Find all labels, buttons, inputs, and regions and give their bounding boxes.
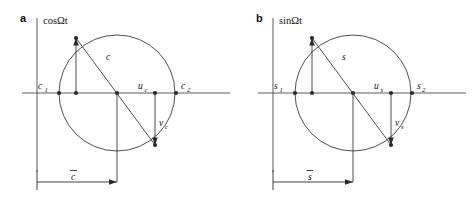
dimension-group-a: c xyxy=(37,170,117,190)
dot-left-intercept-a xyxy=(57,91,61,95)
dot-center-b xyxy=(351,91,355,95)
dot-right-intercept-b xyxy=(410,91,414,95)
label-right-intercept-main-b: s xyxy=(417,81,421,91)
dimension-label-a: c xyxy=(70,171,77,183)
label-v-sub-b: s xyxy=(401,123,404,130)
dimension-group-b: s xyxy=(273,170,353,190)
label-left-intercept-b: s 1 xyxy=(274,81,283,93)
diameter-chord-a xyxy=(76,38,155,145)
label-v-sub-a: c xyxy=(165,123,168,130)
figure-root: a cosΩt c 1 xyxy=(0,0,472,207)
dimension-label-main-a: c xyxy=(71,172,76,182)
axis-label-a: cosΩt xyxy=(43,15,68,26)
dot-u-point-b xyxy=(389,91,393,95)
panel-letter-b: b xyxy=(256,12,263,24)
label-u-main-a: u xyxy=(138,81,143,91)
label-right-intercept-b: s 2 xyxy=(417,81,426,93)
dot-upper-foot-a xyxy=(74,91,78,95)
dot-left-intercept-b xyxy=(293,91,297,95)
dot-center-a xyxy=(115,91,119,95)
label-radius-a: c xyxy=(106,52,111,62)
dimension-arrowhead-b xyxy=(345,179,353,185)
dot-u-point-a xyxy=(153,91,157,95)
label-left-intercept-main-b: s xyxy=(274,81,278,91)
label-u-sub-b: s xyxy=(381,86,384,93)
label-left-intercept-sub-a: 1 xyxy=(45,86,48,93)
dot-upper-circle-b xyxy=(310,36,314,40)
label-v-main-a: v xyxy=(159,118,164,128)
label-left-intercept-a: c 1 xyxy=(38,81,48,93)
label-v-main-b: v xyxy=(395,118,400,128)
label-right-intercept-main-a: c xyxy=(181,81,186,91)
diameter-chord-b xyxy=(312,38,391,145)
axis-label-b: sinΩt xyxy=(279,15,302,26)
dot-lower-circle-b xyxy=(389,143,393,147)
panel-b-sine-diagram: b sinΩt s 1 s 2 s u s xyxy=(236,0,472,207)
dimension-label-main-b: s xyxy=(308,172,312,182)
dimension-label-b: s xyxy=(307,171,314,183)
label-left-intercept-main-a: c xyxy=(38,81,43,91)
label-right-intercept-a: c 2 xyxy=(181,81,191,93)
label-right-intercept-sub-a: 2 xyxy=(187,86,191,93)
dot-right-intercept-a xyxy=(174,91,178,95)
label-u-sub-a: c xyxy=(145,86,148,93)
panel-letter-a: a xyxy=(20,12,27,24)
dot-upper-circle-a xyxy=(74,36,78,40)
dot-lower-circle-a xyxy=(153,143,157,147)
label-u-a: u c xyxy=(138,81,148,93)
label-radius-b: s xyxy=(342,52,346,62)
panel-a-cosine-diagram: a cosΩt c 1 xyxy=(0,0,236,207)
label-right-intercept-sub-b: 2 xyxy=(422,86,426,93)
label-u-main-b: u xyxy=(374,81,379,91)
dimension-arrowhead-a xyxy=(109,179,117,185)
dot-upper-foot-b xyxy=(310,91,314,95)
label-left-intercept-sub-b: 1 xyxy=(280,86,283,93)
label-u-b: u s xyxy=(374,81,384,93)
